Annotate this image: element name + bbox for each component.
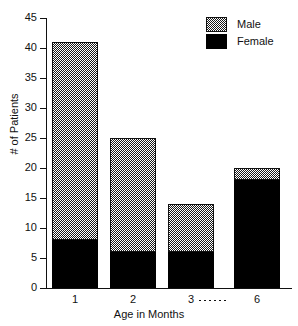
y-axis-title: # of Patients [8, 64, 20, 184]
x-axis-title: Age in Months [0, 308, 298, 320]
solid-black-swatch [206, 34, 227, 49]
legend-label: Female [237, 36, 274, 47]
bar-group-2 [110, 138, 156, 288]
checkered-gray-swatch [206, 17, 227, 32]
y-axis-tick-label: 15 [25, 192, 37, 203]
y-axis-tick-label: 30 [25, 102, 37, 113]
y-axis-tick-label: 45 [25, 12, 37, 23]
y-axis-tick-label: 10 [25, 222, 37, 233]
bar-segment-male-3 [168, 204, 214, 252]
y-axis-tick-label: 20 [25, 162, 37, 173]
x-axis-tick-label-2: 2 [110, 293, 156, 305]
stacked-bar-chart: 051015202530354045 # of Patients 1236 Ag… [0, 0, 298, 326]
bar-segment-male-6 [234, 168, 280, 180]
x-axis-tick-label-3: 3 [168, 293, 214, 305]
legend-label: Male [237, 19, 261, 30]
x-axis-tick-label-6: 6 [234, 293, 280, 305]
bar-segment-female-3 [168, 252, 214, 288]
bar-group-1 [52, 42, 98, 288]
y-axis-tick-label: 40 [25, 42, 37, 53]
y-axis-tick-label: 35 [25, 72, 37, 83]
y-axis-tick-label: 0 [31, 282, 37, 293]
x-axis-tick-label-1: 1 [52, 293, 98, 305]
bar-group-6 [234, 168, 280, 288]
bar-segment-female-6 [234, 180, 280, 288]
legend-item-male: Male [206, 16, 294, 33]
bar-segment-male-2 [110, 138, 156, 252]
bar-segment-female-1 [52, 240, 98, 288]
bar-group-3 [168, 204, 214, 288]
legend: MaleFemale [206, 16, 294, 50]
bar-segment-female-2 [110, 252, 156, 288]
y-axis-tick-label: 5 [31, 252, 37, 263]
y-axis-ticks: 051015202530354045 [0, 0, 46, 326]
legend-item-female: Female [206, 33, 294, 50]
bar-segment-male-1 [52, 42, 98, 240]
y-axis-tick-label: 25 [25, 132, 37, 143]
x-axis-break-dotted-line [199, 300, 229, 301]
